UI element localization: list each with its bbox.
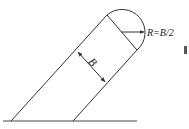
width-label: B (86, 55, 100, 68)
semicircular-cap (107, 9, 145, 50)
cropped-edge-fragment (184, 46, 187, 54)
inclined-channel-diagram: B R=B/2 (0, 0, 189, 129)
radius-label: R=B/2 (146, 27, 174, 38)
right-wall-line (73, 50, 137, 121)
